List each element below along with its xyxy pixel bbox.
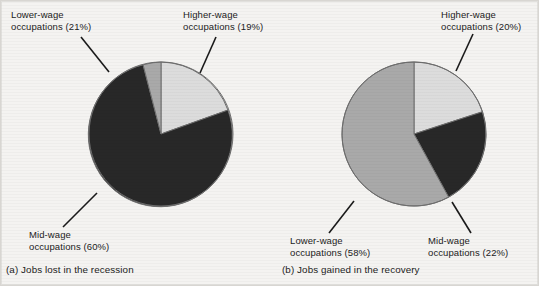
callout-b-mid-wage: Mid-wage occupations (22%) [428,235,508,259]
figure-container: Lower-wage occupations (21%) Higher-wage… [0,0,539,286]
panel-jobs-gained: Higher-wage occupations (20%) Lower-wage… [271,1,539,286]
callout-a-higher-wage: Higher-wage occupations (19%) [183,9,263,33]
callout-a-lower-wage: Lower-wage occupations (21%) [11,9,91,33]
callout-a-mid-wage: Mid-wage occupations (60%) [29,229,109,253]
callout-b-higher-wage: Higher-wage occupations (20%) [441,9,521,33]
caption-panel-a: (a) Jobs lost in the recession [6,264,134,276]
callout-b-lower-wage: Lower-wage occupations (58%) [290,235,370,259]
caption-panel-b: (b) Jobs gained in the recovery [282,264,420,276]
panel-jobs-lost: Lower-wage occupations (21%) Higher-wage… [1,1,270,286]
